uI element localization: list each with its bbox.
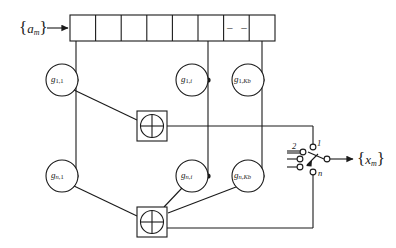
wire-gn-i-to-adder-n	[164, 188, 182, 207]
switch-contact-2[interactable]	[300, 149, 306, 155]
diagram-canvas: {am} – – g1,1 g1,i g1,Kb gn,1 gn,i gn,Kb…	[0, 0, 396, 248]
switch-contact-n[interactable]	[310, 169, 316, 175]
gain-sub-col: i	[190, 77, 192, 84]
gain-sub-col: Kb	[243, 77, 251, 84]
gain-sub-col: 1	[60, 173, 63, 180]
switch-contact-1-label: 1	[317, 138, 321, 148]
output-label: {xm}	[357, 149, 385, 169]
gain-label-gn-1: gn,1	[51, 170, 64, 180]
diagram-vector-layer	[0, 0, 396, 248]
gain-label-gn-kb: gn,Kb	[234, 170, 251, 180]
input-label: {am}	[19, 18, 48, 38]
wire-gn-kb-to-adder-n	[168, 187, 236, 213]
gain-label-g1-1: g1,1	[51, 74, 63, 84]
switch-contact-n-label: n	[318, 168, 322, 178]
gain-sub-col: Kb	[243, 173, 251, 180]
switch-pole[interactable]	[324, 156, 330, 162]
switch-contact-1[interactable]	[310, 144, 316, 150]
switch-wiper-arrow	[306, 160, 312, 167]
gain-label-g1-kb: g1,Kb	[234, 74, 251, 84]
register-ellipsis: – –	[227, 21, 250, 33]
input-open-brace: {	[19, 18, 27, 37]
output-open-brace: {	[357, 149, 365, 168]
gain-label-g1-i: g1,i	[181, 74, 192, 84]
wire-gn-1-to-adder-n	[74, 186, 137, 216]
switch-contact-3[interactable]	[297, 156, 303, 162]
input-close-brace: }	[39, 18, 47, 37]
gain-sub-col: 1	[60, 77, 63, 84]
gain-sub-col: i	[190, 173, 192, 180]
switch-contact-2-label: 2	[292, 141, 296, 151]
output-close-brace: }	[377, 149, 385, 168]
wire-g1-1-to-adder1	[74, 90, 137, 120]
gain-label-gn-i: gn,i	[181, 170, 192, 180]
switch-contact-4[interactable]	[297, 164, 303, 170]
